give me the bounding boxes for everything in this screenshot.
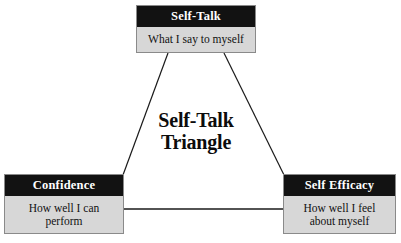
diagram-canvas: Self-Talk What I say to myself Confidenc… [0, 0, 401, 243]
node-self-talk[interactable]: Self-Talk What I say to myself [136, 5, 256, 53]
node-self-efficacy[interactable]: Self Efficacy How well I feel about myse… [283, 174, 396, 234]
node-self-efficacy-body: How well I feel about myself [284, 196, 395, 233]
node-self-efficacy-header: Self Efficacy [284, 175, 395, 196]
node-self-talk-body: What I say to myself [137, 27, 255, 52]
node-confidence-body: How well I can perform [5, 196, 123, 233]
node-confidence[interactable]: Confidence How well I can perform [4, 174, 124, 234]
node-self-talk-header: Self-Talk [137, 6, 255, 27]
node-confidence-header: Confidence [5, 175, 123, 196]
diagram-title: Self-Talk Triangle [131, 110, 261, 153]
